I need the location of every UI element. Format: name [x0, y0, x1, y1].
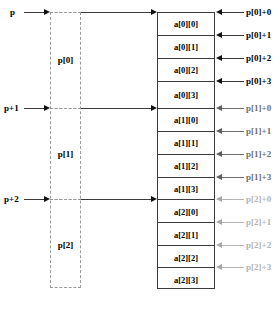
connector-addr-9 [222, 222, 244, 223]
connector-p2-to-row8 [81, 199, 155, 200]
connector-addr-1 [222, 35, 244, 36]
address-label-p1-plus-0: p[1]+0 [246, 104, 271, 113]
array-row-divider-9 [157, 222, 215, 223]
pointer-label-p-plus-2: p+2 [4, 195, 19, 204]
array-memory-table [157, 12, 215, 289]
address-label-p1-plus-1: p[1]+1 [246, 127, 271, 136]
address-label-p0-plus-2: p[0]+2 [246, 54, 271, 63]
connector-addr-11 [222, 267, 244, 268]
address-label-p0-plus-0: p[0]+0 [246, 8, 271, 17]
connector-addr-7 [222, 177, 244, 178]
pointer-box-entry-line-1 [50, 108, 81, 109]
address-label-p1-plus-3: p[1]+3 [246, 173, 271, 182]
pointer-box-entry-line-0 [50, 12, 81, 13]
array-row-divider-5 [157, 131, 215, 132]
array-cell-a22: a[2][2] [157, 253, 215, 263]
pointer-cell-p0: p[0] [50, 55, 81, 65]
array-cell-a12: a[1][2] [157, 161, 215, 171]
diagram-canvas: p p+1 p+2 p[0] p[1] p[2] a[0][0] a[0][1]… [0, 0, 279, 310]
connector-p-shaft [24, 12, 46, 13]
address-label-p0-plus-1: p[0]+1 [246, 31, 271, 40]
connector-addr-2 [222, 58, 244, 59]
pointer-cell-p1: p[1] [50, 149, 81, 159]
array-row-divider-2 [157, 58, 215, 59]
array-row-divider-4 [157, 108, 215, 109]
connector-addr-4 [222, 108, 244, 109]
array-cell-a03: a[0][3] [157, 90, 215, 100]
array-row-divider-1 [157, 35, 215, 36]
connector-addr-6 [222, 154, 244, 155]
array-cell-a00: a[0][0] [157, 19, 215, 29]
connector-p-plus-2-shaft [24, 199, 46, 200]
connector-addr-0 [222, 12, 244, 13]
address-label-p2-plus-0: p[2]+0 [246, 195, 271, 204]
array-cell-a10: a[1][0] [157, 115, 215, 125]
array-cell-a23: a[2][3] [157, 275, 215, 285]
connector-p-plus-1-shaft [24, 108, 46, 109]
address-label-p2-plus-1: p[2]+1 [246, 218, 271, 227]
connector-addr-5 [222, 131, 244, 132]
array-row-divider-10 [157, 245, 215, 246]
array-cell-a13: a[1][3] [157, 184, 215, 194]
connector-addr-10 [222, 245, 244, 246]
array-row-divider-3 [157, 81, 215, 82]
address-label-p2-plus-3: p[2]+3 [246, 263, 271, 272]
array-row-divider-11 [157, 267, 215, 268]
array-cell-a02: a[0][2] [157, 65, 215, 75]
address-label-p0-plus-3: p[0]+3 [246, 77, 271, 86]
pointer-label-p: p [10, 8, 15, 17]
connector-p0-to-row0 [81, 12, 155, 13]
address-label-p1-plus-2: p[1]+2 [246, 150, 271, 159]
array-cell-a20: a[2][0] [157, 207, 215, 217]
pointer-cell-p2: p[2] [50, 240, 81, 250]
array-row-divider-7 [157, 177, 215, 178]
address-label-p2-plus-2: p[2]+2 [246, 241, 271, 250]
pointer-label-p-plus-1: p+1 [4, 104, 19, 113]
connector-addr-8 [222, 199, 244, 200]
connector-p1-to-row4 [81, 108, 155, 109]
array-cell-a21: a[2][1] [157, 230, 215, 240]
pointer-box-entry-line-2 [50, 199, 81, 200]
array-row-divider-8 [157, 199, 215, 200]
array-cell-a11: a[1][1] [157, 138, 215, 148]
array-row-divider-6 [157, 154, 215, 155]
array-cell-a01: a[0][1] [157, 42, 215, 52]
connector-addr-3 [222, 81, 244, 82]
